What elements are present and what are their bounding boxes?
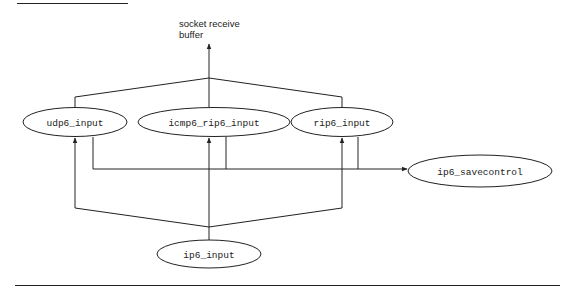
- node-ip6-input: ip6_input: [157, 240, 261, 268]
- svg-text:ip6_input: ip6_input: [183, 250, 234, 261]
- diagram-canvas: socket receive buffer udp6_input icmp6_r…: [0, 0, 572, 289]
- edge-ip6-input-to-rip6: [209, 138, 342, 227]
- edge-rip6-to-junction: [209, 78, 342, 108]
- node-rip6-input: rip6_input: [291, 108, 393, 137]
- socket-receive-buffer-label: socket receive: [179, 18, 240, 29]
- svg-text:udp6_input: udp6_input: [46, 118, 103, 129]
- edge-ip6-input-to-udp6: [75, 138, 209, 227]
- socket-receive-buffer-label-line2: buffer: [179, 29, 203, 40]
- node-ip6-savecontrol: ip6_savecontrol: [408, 155, 552, 187]
- node-icmp6-rip6-input: icmp6_rip6_input: [138, 108, 290, 137]
- svg-text:ip6_savecontrol: ip6_savecontrol: [437, 167, 523, 178]
- node-udp6-input: udp6_input: [23, 108, 127, 137]
- edge-udp6-to-junction: [75, 78, 209, 108]
- svg-text:rip6_input: rip6_input: [313, 118, 370, 129]
- diagram-svg: socket receive buffer udp6_input icmp6_r…: [0, 0, 572, 289]
- svg-text:icmp6_rip6_input: icmp6_rip6_input: [168, 118, 259, 129]
